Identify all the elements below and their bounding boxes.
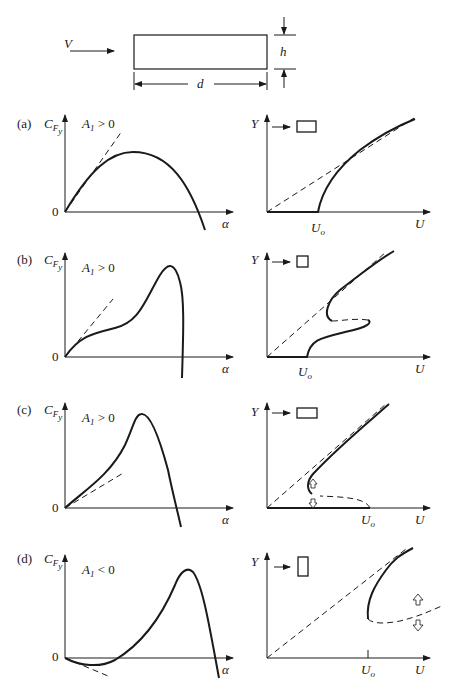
cf-axis-label: CFy — [44, 252, 62, 272]
u0-label: Uo — [311, 220, 325, 237]
u-axis-label: U — [415, 512, 426, 527]
alpha-axis-label: α — [222, 512, 230, 527]
flow-velocity-label: V — [64, 36, 74, 51]
arrow-up-icon — [413, 594, 423, 605]
response-curve-lower — [267, 320, 370, 357]
unstable-branch — [368, 605, 444, 623]
cf-axis-label: CFy — [44, 551, 62, 571]
rectangular-section — [134, 35, 267, 69]
section-schematic: V h d — [64, 17, 296, 91]
panel-c: (c) CFy A1 > 0 0 α Y U Uo — [17, 402, 430, 529]
asymptote-line — [267, 549, 406, 658]
panel-tag: (c) — [17, 402, 31, 417]
alpha-axis-label: α — [222, 662, 230, 677]
alpha-axis-label: α — [222, 361, 230, 376]
origin-label: 0 — [52, 349, 59, 364]
arrow-down-icon — [309, 499, 317, 508]
section-icon — [297, 408, 317, 418]
initial-slope-line — [65, 472, 125, 508]
galloping-diagram: V h d (a) CFy A1 > 0 0 α Y U Uo — [0, 0, 461, 688]
u0-label: Uo — [361, 512, 375, 529]
asymptote-line — [267, 118, 414, 212]
condition-label: A1 < 0 — [81, 562, 115, 579]
asymptote-line — [267, 404, 386, 508]
response-curve-upper — [368, 548, 413, 619]
force-coefficient-curve — [65, 152, 205, 230]
arrow-up-icon — [309, 479, 317, 488]
panel-tag: (a) — [17, 116, 31, 131]
panel-tag: (b) — [17, 252, 32, 267]
height-label: h — [280, 44, 287, 59]
response-curve-upper — [308, 404, 389, 494]
origin-label: 0 — [52, 204, 59, 219]
u-axis-label: U — [415, 216, 426, 231]
response-curve-upper — [327, 251, 394, 321]
arrow-down-icon — [413, 620, 423, 631]
origin-label: 0 — [52, 500, 59, 515]
y-axis-label: Y — [251, 404, 260, 419]
u-axis-label: U — [415, 361, 426, 376]
condition-label: A1 > 0 — [81, 116, 115, 133]
unstable-branch — [320, 496, 370, 508]
panel-b: (b) CFy A1 > 0 0 α Y U Uo — [17, 251, 430, 381]
cf-axis-label: CFy — [44, 402, 62, 422]
condition-label: A1 > 0 — [81, 410, 115, 427]
section-icon — [298, 557, 308, 576]
cf-axis-label: CFy — [44, 116, 62, 136]
y-axis-label: Y — [251, 116, 260, 131]
panel-tag: (d) — [17, 551, 32, 566]
force-coefficient-curve — [65, 266, 183, 378]
response-curve — [267, 119, 415, 212]
condition-label: A1 > 0 — [81, 260, 115, 277]
force-coefficient-curve — [65, 570, 219, 678]
panel-d: (d) CFy A1 < 0 0 α Y U Uo — [17, 548, 444, 679]
section-icon — [297, 121, 316, 132]
depth-label: d — [197, 76, 204, 91]
u0-label: Uo — [298, 364, 312, 381]
origin-label: 0 — [52, 649, 59, 664]
panel-a: (a) CFy A1 > 0 0 α Y U Uo — [17, 115, 430, 237]
unstable-branch — [332, 319, 368, 321]
y-axis-label: Y — [251, 252, 260, 267]
section-icon — [297, 256, 308, 267]
u-axis-label: U — [415, 662, 426, 677]
force-coefficient-curve — [65, 414, 181, 527]
u0-label: Uo — [361, 662, 375, 679]
y-axis-label: Y — [251, 554, 260, 569]
alpha-axis-label: α — [222, 216, 230, 231]
